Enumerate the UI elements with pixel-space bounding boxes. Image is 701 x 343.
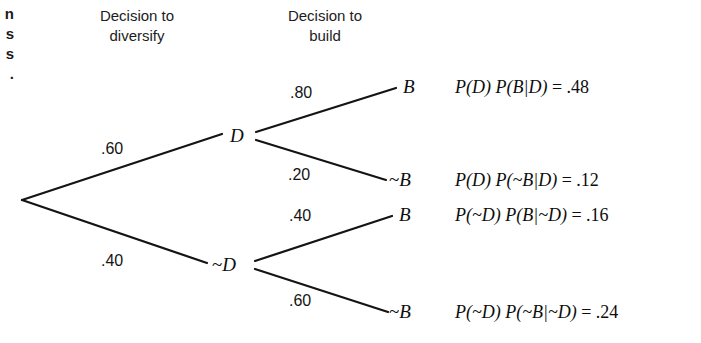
- outcome-3-joint: P(~D): [455, 205, 501, 225]
- terminal-label-not-b-1: ~B: [389, 169, 411, 191]
- branch-label-d-up: .80: [290, 84, 312, 102]
- outcome-expression-2: P(D) P(~B|D) = .12: [455, 170, 599, 191]
- terminal-label-not-b-1-text: B: [399, 169, 411, 190]
- outcome-1-joint: P(D): [455, 77, 491, 97]
- terminal-label-not-b-2: ~B: [389, 301, 411, 323]
- outcome-1-value: = .48: [552, 77, 589, 97]
- tilde-glyph: ~: [389, 169, 399, 190]
- node-label-not-d-text: D: [222, 254, 236, 275]
- outcome-2-joint: P(D): [455, 170, 491, 190]
- terminal-label-b-2: B: [399, 204, 411, 226]
- branch-notd-to-b: [255, 216, 392, 261]
- outcome-expression-1: P(D) P(B|D) = .48: [455, 77, 589, 98]
- outcome-2-conditional: P(~B|D): [495, 170, 557, 190]
- outcome-1-conditional: P(B|D): [495, 77, 547, 97]
- outcome-4-joint: P(~D): [455, 302, 501, 322]
- terminal-label-b-2-text: B: [399, 204, 411, 225]
- node-label-d: D: [230, 125, 244, 147]
- branch-label-root-up: .60: [101, 140, 123, 158]
- branch-label-notd-up: .40: [289, 207, 311, 225]
- outcome-4-value: = .24: [581, 302, 618, 322]
- terminal-label-b-1-text: B: [403, 76, 415, 97]
- node-label-not-d: ~D: [212, 254, 236, 276]
- outcome-expression-3: P(~D) P(B|~D) = .16: [455, 205, 609, 226]
- outcome-expression-4: P(~D) P(~B|~D) = .24: [455, 302, 618, 323]
- branch-label-notd-down: .60: [289, 292, 311, 310]
- branch-label-d-down: .20: [288, 166, 310, 184]
- terminal-label-b-1: B: [403, 76, 415, 98]
- outcome-4-conditional: P(~B|~D): [505, 302, 576, 322]
- outcome-2-value: = .12: [562, 170, 599, 190]
- tilde-glyph: ~: [389, 301, 399, 322]
- probability-tree-figure: n s s . Decision to diversify Decision t…: [0, 0, 701, 343]
- branch-notd-to-notb: [255, 269, 388, 312]
- node-label-d-text: D: [230, 125, 244, 146]
- tilde-glyph: ~: [212, 254, 222, 275]
- branch-d-to-notb: [256, 140, 386, 180]
- branch-label-root-down: .40: [101, 252, 123, 270]
- branch-d-to-b: [256, 88, 396, 132]
- outcome-3-conditional: P(B|~D): [505, 205, 567, 225]
- outcome-3-value: = .16: [571, 205, 608, 225]
- terminal-label-not-b-2-text: B: [399, 301, 411, 322]
